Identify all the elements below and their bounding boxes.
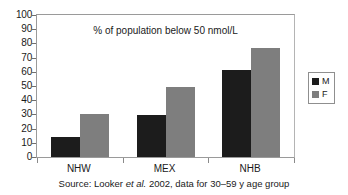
bars-layer (37, 15, 294, 157)
y-tick-label: 70 (0, 53, 32, 63)
y-tick-label: 50 (0, 81, 32, 91)
x-tick-label-nhw: NHW (49, 163, 109, 175)
y-tick-label: 90 (0, 24, 32, 34)
chart-legend: MF (308, 72, 335, 104)
caption-italic: et al. (126, 178, 147, 189)
y-tick-label: 30 (0, 109, 32, 119)
legend-label-m: M (322, 77, 330, 86)
y-tick-label: 40 (0, 95, 32, 105)
bar-nhb-m (222, 70, 251, 157)
legend-item-m: M (312, 76, 330, 87)
y-tick-label: 0 (0, 152, 32, 162)
bar-mex-f (166, 87, 195, 157)
caption-prefix: Source: Looker (59, 178, 126, 189)
bar-mex-m (137, 115, 166, 157)
legend-item-f: F (312, 89, 330, 100)
y-tick-label: 20 (0, 124, 32, 134)
bar-nhw-m (51, 137, 80, 157)
chart-caption: Source: Looker et al. 2002, data for 30–… (0, 178, 348, 190)
legend-swatch-f (312, 91, 319, 98)
y-tick-label: 60 (0, 67, 32, 77)
x-tick-label-nhb: NHB (220, 163, 280, 175)
y-tick-label: 10 (0, 138, 32, 148)
y-tick-label: 80 (0, 38, 32, 48)
chart-figure: 0102030405060708090100 % of population b… (0, 0, 348, 195)
bar-nhw-f (80, 114, 109, 157)
y-tick-label: 100 (0, 10, 32, 20)
legend-swatch-m (312, 78, 319, 85)
caption-suffix: 2002, data for 30–59 y age group (146, 178, 289, 189)
x-tick-label-mex: MEX (135, 163, 195, 175)
plot-area: % of population below 50 nmol/L (36, 14, 295, 158)
legend-label-f: F (322, 90, 328, 99)
bar-nhb-f (251, 48, 280, 157)
x-axis-tick-labels: NHWMEXNHB (36, 163, 295, 177)
y-axis-tick-labels: 0102030405060708090100 (0, 14, 32, 158)
